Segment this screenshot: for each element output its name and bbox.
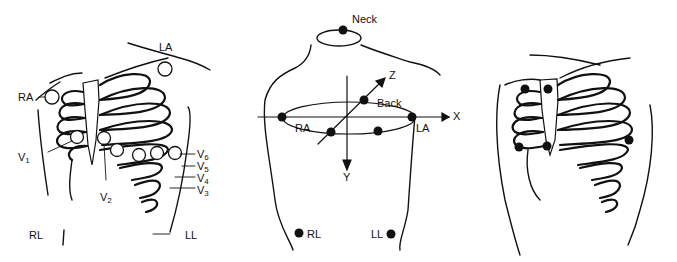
label-la: LA [159, 42, 172, 53]
label-ra: RA [18, 92, 33, 103]
electrode-ra [45, 90, 59, 104]
electrode-s [544, 85, 553, 94]
electrode-front-1 [327, 128, 336, 137]
electrode-v3 [111, 144, 124, 157]
neck-ring [317, 30, 361, 46]
label-y: Y [343, 172, 350, 183]
panel-frank-xyz [258, 26, 449, 251]
electrode-i [543, 142, 552, 151]
sternum [83, 80, 99, 165]
right-clavicle [50, 73, 82, 83]
electrode-v2 [98, 132, 111, 145]
label-back: Back [377, 98, 401, 109]
label-z: Z [389, 70, 396, 81]
electrode-ra [521, 85, 530, 94]
electrode-v1 [71, 131, 84, 144]
label-ll: LL [371, 229, 383, 240]
diagram-canvas [0, 0, 677, 262]
electrode-la [408, 113, 417, 122]
right-ribs [57, 91, 87, 160]
electrode-ll [387, 230, 396, 239]
label-x: X [453, 111, 460, 122]
label-ra: RA [295, 123, 310, 134]
label-rl: RL [29, 230, 43, 241]
panel-standard-12-lead [36, 43, 210, 245]
electrode-ra [278, 113, 287, 122]
electrode-neck [339, 26, 348, 35]
electrode-v6 [169, 147, 182, 160]
label-v3: V3 [197, 185, 209, 198]
electrode-front-2 [374, 127, 383, 136]
electrode-a [625, 136, 634, 145]
electrode-rl [295, 229, 304, 238]
electrode-e [515, 143, 524, 152]
electrode-v5 [151, 147, 164, 160]
electrode-la [158, 62, 172, 76]
label-v1: V1 [18, 152, 30, 165]
label-la: LA [416, 123, 429, 134]
label-ll: LL [185, 230, 197, 241]
label-v2: V2 [100, 192, 112, 205]
electrode-v4 [133, 149, 146, 162]
electrode-back [360, 96, 369, 105]
label-neck: Neck [352, 14, 377, 25]
electrodes [45, 62, 182, 162]
right-ribs [513, 91, 544, 148]
left-ribs [558, 74, 632, 212]
panel-easi [497, 55, 653, 255]
label-rl: RL [307, 229, 321, 240]
